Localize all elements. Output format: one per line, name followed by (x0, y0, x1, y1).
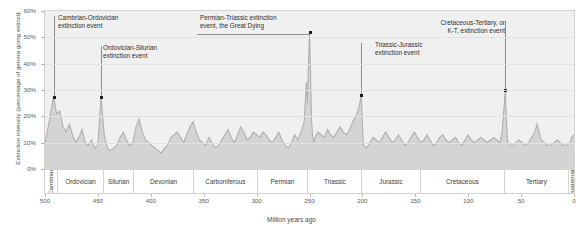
annotation-leader-line (361, 43, 362, 95)
gridline (45, 37, 574, 38)
period-band-label: Ordovician (65, 178, 96, 185)
x-tick-label: 250 (304, 197, 314, 204)
x-tick-label: 50 (518, 197, 525, 204)
y-tick-label: 30% (8, 86, 36, 93)
gridline (45, 116, 574, 117)
gridline (45, 143, 574, 144)
period-band-quaternary: Quaternary (569, 170, 574, 193)
extinction-event-marker[interactable] (309, 31, 312, 34)
x-tick-label: 500 (40, 197, 50, 204)
period-band-label: Permian (271, 178, 295, 185)
y-tick-label: 60% (8, 7, 36, 14)
extinction-event-marker[interactable] (53, 96, 56, 99)
gridline (45, 64, 574, 65)
x-tick-label: 350 (199, 197, 209, 204)
period-band-label: Devonian (150, 178, 177, 185)
extinction-event-marker[interactable] (100, 96, 103, 99)
x-tick-label: 200 (357, 197, 367, 204)
annotation-label-ordovician-silurian: Ordovician-Silurian extinction event (103, 44, 157, 60)
x-tick-label: 300 (251, 197, 261, 204)
period-band-label: Quaternary (569, 170, 574, 193)
period-band-ordovician: Ordovician (58, 170, 105, 193)
annotation-label-permian-triassic: Permian-Triassic extinction event, the G… (200, 14, 276, 30)
y-tick-mark (41, 143, 45, 144)
period-band-label: Cambrian (47, 170, 54, 193)
period-band-label: Triassic (324, 178, 346, 185)
period-band-triassic: Triassic (308, 170, 362, 193)
y-tick-mark (41, 37, 45, 38)
period-band-permian: Permian (258, 170, 309, 193)
period-band-label: Cretaceous (446, 178, 479, 185)
period-band-label: Jurassic (379, 178, 402, 185)
annotation-leader-line (505, 21, 506, 90)
annotation-label-cambrian-ordovician: Cambrian-Ordovician extinction event (58, 14, 118, 30)
x-tick-label: 150 (410, 197, 420, 204)
x-axis-title: Million years ago (0, 216, 583, 223)
y-tick-mark (41, 11, 45, 12)
y-axis-ticks: 0%10%20%30%40%50%60% (8, 0, 36, 230)
x-axis-ticks: 500450400350300250200150100500 (44, 194, 575, 208)
annotation-leader-line (101, 46, 102, 97)
y-tick-label: 20% (8, 112, 36, 119)
x-tick-label: 0 (572, 197, 575, 204)
annotation-leader-line (197, 34, 310, 35)
annotation-leader-line (54, 16, 55, 97)
gridline (45, 90, 574, 91)
y-tick-mark (41, 90, 45, 91)
period-band-label: Tertiary (526, 178, 547, 185)
period-band-tertiary: Tertiary (505, 170, 568, 193)
y-tick-label: 0% (8, 165, 36, 172)
period-band-cretaceous: Cretaceous (421, 170, 506, 193)
period-band-label: Carboniferous (205, 178, 245, 185)
annotation-label-cretaceous-tertiary: Cretaceous-Tertiary, or K-T, extinction … (417, 19, 505, 35)
period-band-carboniferous: Carboniferous (194, 170, 257, 193)
period-band-cambrian: Cambrian (45, 170, 58, 193)
plot-area: Cambrian-Ordovician extinction eventOrdo… (44, 10, 575, 170)
y-tick-mark (41, 64, 45, 65)
y-tick-label: 10% (8, 139, 36, 146)
period-band-jurassic: Jurassic (362, 170, 420, 193)
extinction-intensity-chart: Extinction intensity (percentage of gene… (0, 0, 583, 230)
y-tick-mark (41, 116, 45, 117)
y-tick-label: 40% (8, 60, 36, 67)
y-tick-label: 50% (8, 33, 36, 40)
extinction-event-marker[interactable] (360, 94, 363, 97)
x-tick-label: 100 (463, 197, 473, 204)
annotation-label-triassic-jurassic: Triassic-Jurassic extinction event (375, 41, 422, 57)
period-band-silurian: Silurian (104, 170, 134, 193)
period-band-label: Silurian (108, 178, 129, 185)
x-tick-label: 450 (93, 197, 103, 204)
geologic-period-bands: CambrianOrdovicianSilurianDevonianCarbon… (44, 170, 575, 194)
period-band-devonian: Devonian (134, 170, 194, 193)
x-tick-label: 400 (146, 197, 156, 204)
